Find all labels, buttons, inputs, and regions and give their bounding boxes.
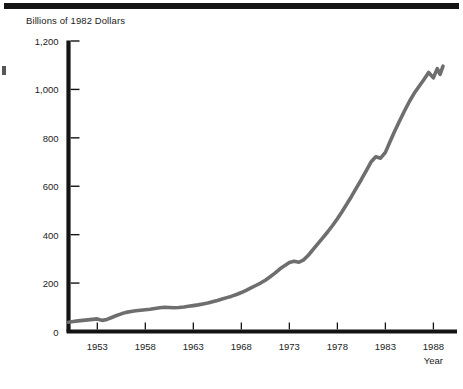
chart-data-series bbox=[69, 66, 444, 322]
x-tick-label: 1983 bbox=[375, 341, 396, 352]
x-tick-label: 1953 bbox=[87, 341, 108, 352]
x-tick-label: 1988 bbox=[423, 341, 444, 352]
chart-axes bbox=[67, 41, 458, 332]
y-tick-label: 1,200 bbox=[0, 36, 59, 47]
y-tick-label: 0 bbox=[0, 326, 59, 337]
x-axis-title: Year bbox=[424, 355, 443, 366]
x-tick-label: 1958 bbox=[135, 341, 156, 352]
line-chart-svg bbox=[0, 0, 463, 389]
chart-plot-area bbox=[0, 0, 463, 389]
y-tick-label: 400 bbox=[0, 229, 59, 240]
x-tick-label: 1968 bbox=[231, 341, 252, 352]
series-line bbox=[69, 66, 444, 322]
y-tick-label: 200 bbox=[0, 278, 59, 289]
figure: Billions of 1982 Dollars 02004006008001,… bbox=[0, 0, 463, 389]
y-tick-label: 800 bbox=[0, 132, 59, 143]
y-tick-label: 600 bbox=[0, 181, 59, 192]
x-tick-label: 1973 bbox=[279, 341, 300, 352]
x-tick-label: 1978 bbox=[327, 341, 348, 352]
y-tick-label: 1,000 bbox=[0, 84, 59, 95]
x-tick-label: 1963 bbox=[183, 341, 204, 352]
